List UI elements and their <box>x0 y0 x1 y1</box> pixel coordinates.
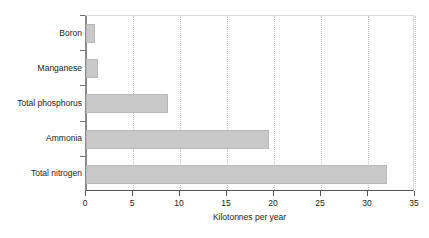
plot-area <box>85 15 414 191</box>
x-axis-tick-label: 5 <box>112 198 152 208</box>
x-axis-tick-label: 20 <box>253 198 293 208</box>
x-axis-tick-25 <box>320 191 321 196</box>
y-axis-label: Total nitrogen <box>2 168 82 178</box>
y-axis-label: Ammonia <box>2 133 82 143</box>
x-axis-tick-5 <box>132 191 133 196</box>
x-axis-tick-0 <box>85 191 86 196</box>
x-axis-tick-label: 25 <box>300 198 340 208</box>
y-axis-labels: Total nitrogenAmmoniaTotal phosphorusMan… <box>0 15 82 191</box>
x-axis-tick-label: 10 <box>159 198 199 208</box>
x-axis-tick-20 <box>273 191 274 196</box>
x-axis-tick-35 <box>414 191 415 196</box>
bar-row <box>86 16 413 51</box>
bar-row <box>86 51 413 86</box>
x-axis-tick-label: 35 <box>394 198 429 208</box>
bar-boron <box>86 24 95 43</box>
gridline-35 <box>415 16 416 190</box>
y-axis-tick <box>80 15 85 16</box>
bar-row <box>86 122 413 157</box>
y-axis-tick <box>80 85 85 86</box>
x-axis-tick-label: 15 <box>206 198 246 208</box>
y-axis-tick <box>80 50 85 51</box>
x-axis-tick-15 <box>226 191 227 196</box>
y-axis-tick <box>80 156 85 157</box>
x-axis-tick-label: 0 <box>65 198 105 208</box>
bar-row <box>86 157 413 192</box>
y-axis-label: Manganese <box>2 63 82 73</box>
y-axis-tick <box>80 121 85 122</box>
bar-ammonia <box>86 130 269 149</box>
bar-manganese <box>86 59 98 78</box>
bar-row <box>86 86 413 121</box>
bar-total-nitrogen <box>86 165 387 184</box>
x-axis-tick-label: 30 <box>347 198 387 208</box>
x-axis-tick-30 <box>367 191 368 196</box>
y-axis-label: Boron <box>2 28 82 38</box>
bar-chart: Total nitrogenAmmoniaTotal phosphorusMan… <box>0 0 429 238</box>
bar-total-phosphorus <box>86 94 168 113</box>
y-axis-label: Total phosphorus <box>2 98 82 108</box>
x-axis-title: Kilotonnes per year <box>85 212 414 222</box>
x-axis-tick-10 <box>179 191 180 196</box>
